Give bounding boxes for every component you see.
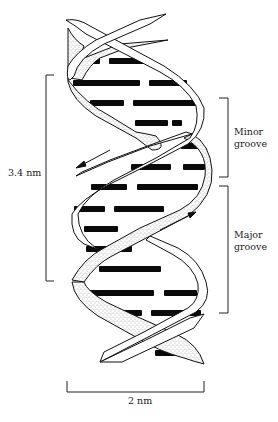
major-groove-bracket	[219, 186, 228, 313]
minor-groove-label-line1: Minor	[234, 126, 264, 137]
dna-double-helix-diagram: 3.4 nm Minor groove Major groove 2 nm	[0, 0, 278, 422]
major-groove-label-line1: Major	[234, 229, 263, 240]
arrow-down-left-head	[76, 161, 86, 168]
arrow-up-right-head	[188, 212, 196, 218]
major-groove-label-line2: groove	[234, 241, 267, 252]
minor-groove-label-line2: groove	[234, 138, 267, 149]
width-scale-bar	[67, 381, 204, 392]
pitch-label: 3.4 nm	[8, 167, 41, 178]
width-label: 2 nm	[128, 395, 152, 406]
pitch-bracket	[46, 75, 54, 281]
minor-groove-bracket	[219, 98, 228, 177]
